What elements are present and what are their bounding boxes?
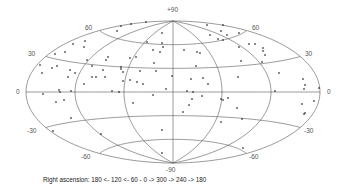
data-point [226,34,227,35]
data-point [122,80,123,81]
data-point [135,56,136,57]
data-point [42,93,43,94]
data-point [171,75,172,76]
data-point [136,81,137,82]
data-point [91,65,92,66]
data-point [161,42,162,43]
data-point [207,83,208,84]
data-point [304,84,305,85]
data-point [220,30,221,31]
data-point [192,91,193,92]
data-point [303,88,304,89]
data-point [222,39,223,40]
data-point [153,62,154,63]
dec-label-minus30-left: -30 [27,128,36,135]
data-point [102,69,103,70]
data-point [264,54,265,55]
data-point [72,43,73,44]
data-point [222,24,223,25]
x-axis-caption: Right ascension: 180 <- 120 <- 60 - 0 ->… [43,176,206,183]
data-point [196,51,197,52]
data-point [146,41,147,42]
data-point [84,40,85,41]
dec-label-minus90: -90 [166,167,175,174]
data-point [191,98,192,99]
data-point [55,101,56,102]
data-point [142,83,143,84]
dec-label-0-right: 0 [327,89,331,96]
dec-label-minus30-right: -30 [304,128,313,135]
data-point [63,99,64,100]
data-point [111,90,112,91]
data-point [120,68,121,69]
data-point [118,91,119,92]
data-point [56,65,57,66]
data-point [52,130,53,131]
data-point [100,133,101,134]
data-point [183,49,184,50]
data-point [129,79,130,80]
data-point [39,64,40,65]
data-point [132,102,133,103]
data-point [107,56,108,57]
data-point [199,52,200,53]
dec-label-30-right: 30 [305,51,312,58]
data-point [161,152,162,153]
data-point [145,21,146,22]
data-point [220,98,221,99]
data-point [54,53,55,54]
dec-label-60-right: 60 [252,25,259,32]
data-point [152,49,153,50]
data-point [220,121,221,122]
data-point [120,25,121,26]
data-point [83,46,84,47]
dec-label-minus60-right: -60 [249,154,258,161]
data-point [261,61,262,62]
data-point [104,76,105,77]
data-point [313,100,314,101]
data-point [202,77,203,78]
data-point [206,24,207,25]
dec-label-0-left: 0 [16,89,20,96]
grid-lines [26,21,320,163]
data-point [91,76,92,77]
data-point [83,83,84,84]
data-point [139,70,140,71]
data-point [240,60,241,61]
data-point [152,94,153,95]
data-point [209,34,210,35]
data-point [236,107,237,108]
data-point [222,99,223,100]
data-point [86,59,87,60]
data-point [274,90,275,91]
data-point [74,72,75,73]
data-point [165,88,166,89]
data-point [51,67,52,68]
data-point [301,103,302,104]
dec-label-30-left: 30 [28,51,35,58]
data-point [64,51,65,52]
data-point [122,71,123,72]
data-point [303,113,304,114]
data-point [161,129,162,130]
data-point [241,118,242,119]
sky-map-plot [0,0,345,194]
data-point [120,66,121,67]
data-point [201,95,202,96]
data-point [182,111,183,112]
data-point [95,76,96,77]
data-point [190,78,191,79]
data-point [227,97,228,98]
data-point [67,76,68,77]
data-point [217,38,218,39]
data-point [248,43,249,44]
data-point [238,32,239,33]
data-point [262,50,263,51]
dec-label-plus90: +90 [167,7,178,14]
data-point [70,90,71,91]
dec-label-minus60-left: -60 [81,154,90,161]
data-point [105,59,106,60]
data-point [238,46,239,47]
data-point [237,76,238,77]
data-point [242,147,243,148]
